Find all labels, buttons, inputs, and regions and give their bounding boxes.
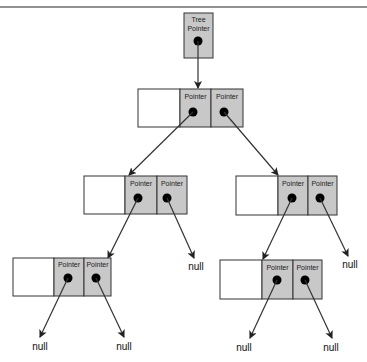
binary-tree-diagram: Tree Pointer Pointer Pointer Pointer Poi… — [0, 0, 367, 362]
pointer-label: Pointer — [161, 180, 184, 187]
arrow — [224, 112, 278, 175]
pointer-label: Pointer — [184, 93, 207, 100]
tree-pointer-label-2: Pointer — [187, 25, 210, 32]
pointer-label: Pointer — [86, 261, 109, 268]
null-label: null — [342, 259, 358, 270]
null-label: null — [32, 341, 48, 352]
pointer-label: Pointer — [216, 93, 239, 100]
pointer-label: Pointer — [58, 261, 81, 268]
null-label: null — [323, 342, 339, 353]
pointer-label: Pointer — [296, 264, 319, 271]
pointer-label: Pointer — [266, 264, 289, 271]
null-label: null — [236, 342, 252, 353]
pointer-label: Pointer — [282, 180, 305, 187]
tree-pointer-label-1: Tree — [191, 16, 205, 23]
pointer-label: Pointer — [311, 180, 334, 187]
root-node: Pointer Pointer — [138, 89, 243, 127]
null-label: null — [188, 261, 204, 272]
null-label: null — [116, 341, 132, 352]
pointer-label: Pointer — [130, 180, 153, 187]
